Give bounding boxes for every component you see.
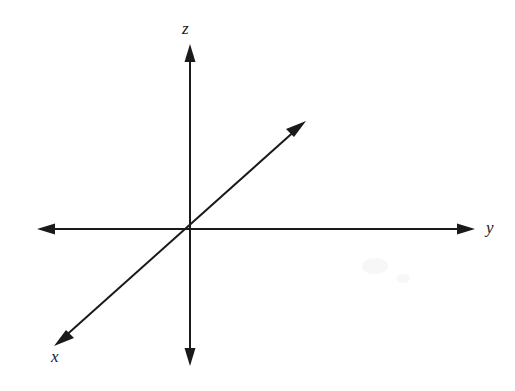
coordinate-axes-diagram: z y x xyxy=(0,0,515,391)
y-axis-label: y xyxy=(486,219,494,236)
axes-drawing xyxy=(0,0,515,391)
diagram-background xyxy=(0,0,515,391)
x-axis-label: x xyxy=(51,348,59,365)
z-axis-label: z xyxy=(182,20,189,37)
